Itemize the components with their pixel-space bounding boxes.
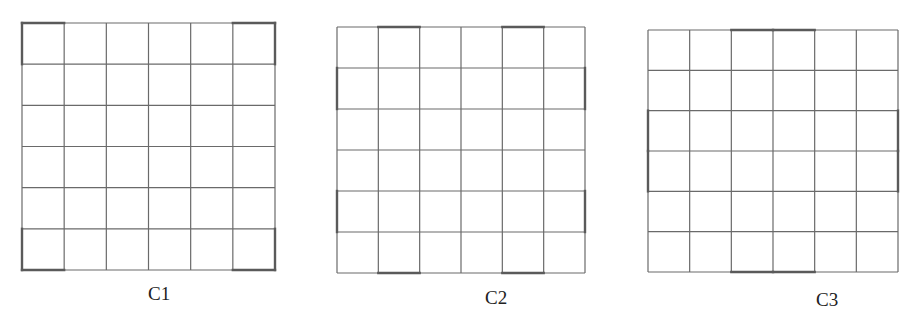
grid-cell (856, 111, 898, 151)
grid-cell (773, 30, 815, 70)
grid-cell (856, 191, 898, 231)
grid-cell (337, 68, 378, 109)
grid-cell (461, 109, 502, 150)
grid-cell (64, 188, 106, 229)
grid-cell (106, 23, 148, 64)
grid-cell (337, 109, 378, 150)
grid-cell (378, 27, 419, 68)
grid-cell (856, 70, 898, 110)
grid-cell (149, 147, 191, 188)
figure-canvas: C1 C2 C3 (0, 0, 923, 325)
grid-cell (690, 30, 732, 70)
grid-cell (106, 188, 148, 229)
grid-cell (191, 188, 233, 229)
grid-cell (690, 232, 732, 272)
grid-c2 (337, 27, 585, 273)
grid-cell (773, 70, 815, 110)
grid-cell (773, 111, 815, 151)
grid-cell (690, 151, 732, 191)
grid-cell (149, 23, 191, 64)
grid-cell (648, 232, 690, 272)
grid-cell (461, 191, 502, 232)
grid-cell (337, 191, 378, 232)
grid-cell (233, 229, 275, 270)
grid-cell (22, 188, 64, 229)
grid-cell (648, 111, 690, 151)
grid-cell (106, 147, 148, 188)
grid-cell (690, 111, 732, 151)
grid-cell (149, 64, 191, 105)
grid-cell (544, 191, 585, 232)
grid-cell (191, 23, 233, 64)
grid-cell (648, 70, 690, 110)
grid-cell (233, 64, 275, 105)
grid-cell (233, 105, 275, 146)
grid-cell (191, 105, 233, 146)
grid-cell (378, 191, 419, 232)
grid-cell (731, 191, 773, 231)
grid-cell (856, 151, 898, 191)
grid-cell (337, 150, 378, 191)
grid-cell (106, 105, 148, 146)
grid-cell (378, 232, 419, 273)
grid-cell (815, 111, 857, 151)
grid-cell (22, 64, 64, 105)
grid-cell (690, 70, 732, 110)
grid-cell (815, 70, 857, 110)
grid-cell (64, 23, 106, 64)
grid-cell (22, 147, 64, 188)
grid-cell (149, 105, 191, 146)
grid-cell (815, 232, 857, 272)
grid-cell (815, 191, 857, 231)
grid-cell (502, 150, 543, 191)
grid-cell (64, 229, 106, 270)
grid-cell (544, 27, 585, 68)
grid-c3 (648, 30, 898, 272)
grid-cell (461, 68, 502, 109)
grid-cell (191, 147, 233, 188)
grid-cell (420, 27, 461, 68)
grid-cell (64, 147, 106, 188)
grid-cell (337, 27, 378, 68)
grid-cell (461, 150, 502, 191)
grid-label-c3: C3 (816, 289, 838, 310)
grid-cell (502, 68, 543, 109)
grid-cell (815, 151, 857, 191)
grid-cell (106, 229, 148, 270)
grid-cell (22, 105, 64, 146)
grid-cell (648, 30, 690, 70)
grid-cell (22, 229, 64, 270)
grid-cell (420, 232, 461, 273)
grid-cell (191, 64, 233, 105)
grid-cell (773, 151, 815, 191)
grid-cell (648, 151, 690, 191)
grid-cell (420, 109, 461, 150)
grid-cell (856, 232, 898, 272)
grid-cell (731, 151, 773, 191)
grid-cell (420, 68, 461, 109)
grid-cell (731, 232, 773, 272)
grid-cell (461, 27, 502, 68)
grid-cell (544, 68, 585, 109)
grid-cell (544, 109, 585, 150)
grid-label-c2: C2 (485, 287, 507, 308)
grid-cell (815, 30, 857, 70)
grid-cell (502, 109, 543, 150)
grid-cell (64, 105, 106, 146)
grid-cell (420, 191, 461, 232)
grid-cell (773, 191, 815, 231)
grid-cell (378, 109, 419, 150)
grid-cell (731, 70, 773, 110)
grid-cell (149, 188, 191, 229)
grid-cell (420, 150, 461, 191)
grid-cell (233, 23, 275, 64)
grid-cell (690, 191, 732, 231)
grid-cell (378, 150, 419, 191)
grid-cell (461, 232, 502, 273)
grid-cell (773, 232, 815, 272)
grid-label-c1: C1 (148, 283, 170, 304)
grid-cell (648, 191, 690, 231)
grid-cell (731, 30, 773, 70)
grid-cell (378, 68, 419, 109)
grid-cell (233, 188, 275, 229)
